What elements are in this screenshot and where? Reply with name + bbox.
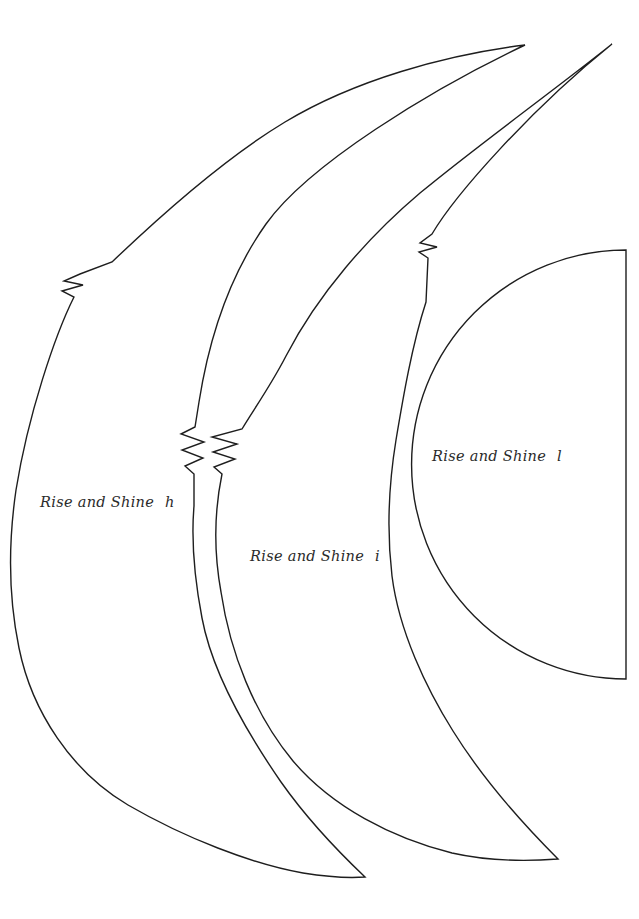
piece-i-label-text: Rise and Shine — [250, 548, 364, 564]
piece-h-label-text: Rise and Shine — [40, 494, 154, 510]
pattern-page: Rise and Shineh Rise and Shinei Rise and… — [0, 0, 639, 919]
piece-i-label: Rise and Shinei — [250, 548, 380, 564]
piece-l-outline — [412, 250, 626, 679]
piece-h-label: Rise and Shineh — [40, 494, 175, 510]
piece-l-letter: l — [557, 448, 562, 464]
piece-h-letter: h — [165, 494, 175, 510]
piece-i-letter: i — [375, 548, 380, 564]
piece-l-label-text: Rise and Shine — [432, 448, 546, 464]
piece-l-label: Rise and Shinel — [432, 448, 562, 464]
